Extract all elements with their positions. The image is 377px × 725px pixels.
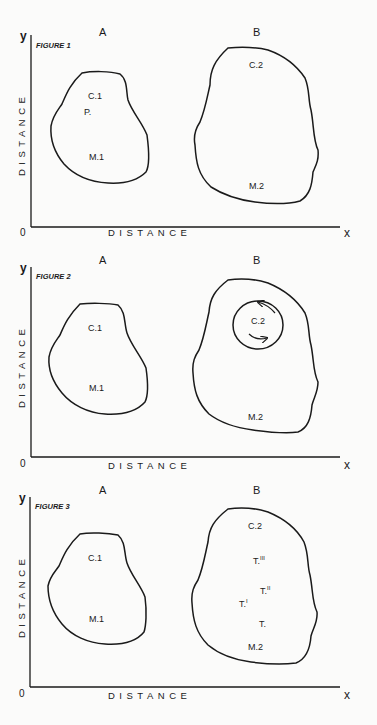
column-b-label: B: [253, 254, 260, 266]
region-a-outline: [49, 303, 148, 414]
label-t3: T.III: [253, 555, 265, 566]
column-b-label: B: [253, 484, 260, 496]
y-axis-label: DISTANCE: [16, 555, 27, 638]
x-axis-label: DISTANCE: [108, 690, 191, 701]
arrow-clockwise-icon: [249, 334, 267, 339]
y-axis-letter: y: [20, 29, 27, 43]
label-c2: C.2: [249, 60, 263, 70]
x-axis-label: DISTANCE: [108, 460, 191, 471]
figure-3: y 0 x FIGURE 3 A B DISTANCE DISTANCE C.1…: [16, 484, 350, 702]
origin-label: 0: [19, 688, 25, 699]
y-axis-letter: y: [19, 491, 26, 505]
region-a-outline: [48, 533, 146, 644]
column-a-label: A: [99, 254, 107, 266]
label-m1: M.1: [89, 383, 104, 393]
label-c1: C.1: [88, 323, 102, 333]
region-b-outline: [192, 508, 317, 664]
y-axis-label: DISTANCE: [16, 93, 27, 176]
label-t2: T.II: [260, 585, 271, 596]
label-c1: C.1: [88, 91, 102, 101]
label-t1: T.I: [239, 598, 248, 609]
label-c1: C.1: [88, 553, 102, 563]
x-axis-letter: x: [344, 458, 350, 472]
origin-label: 0: [20, 227, 26, 238]
label-m1: M.1: [89, 614, 104, 624]
origin-label: 0: [20, 458, 26, 469]
label-m2: M.2: [249, 181, 264, 191]
label-m2: M.2: [248, 412, 263, 422]
figure-title: FIGURE 1: [36, 41, 71, 50]
region-a-outline: [51, 72, 149, 184]
column-a-label: A: [99, 26, 107, 38]
diagram-canvas: y 0 x FIGURE 1 A B DISTANCE DISTANCE C.1…: [0, 0, 377, 725]
label-m1: M.1: [89, 152, 104, 162]
label-c2: C.2: [251, 316, 265, 326]
y-axis-label: DISTANCE: [16, 325, 27, 408]
label-p: P.: [84, 107, 91, 117]
arrow-counterclockwise-icon: [258, 302, 275, 313]
label-m2: M.2: [248, 642, 263, 652]
column-a-label: A: [99, 484, 107, 496]
figure-1: y 0 x FIGURE 1 A B DISTANCE DISTANCE C.1…: [16, 26, 350, 240]
figure-title: FIGURE 3: [35, 502, 70, 511]
label-c2: C.2: [248, 521, 262, 531]
x-axis-letter: x: [344, 226, 350, 240]
x-axis-letter: x: [344, 688, 350, 702]
figure-2: y 0 x FIGURE 2 A B DISTANCE DISTANCE C.1…: [16, 254, 350, 472]
label-t: T.: [259, 619, 266, 629]
figure-title: FIGURE 2: [36, 272, 71, 281]
column-b-label: B: [253, 26, 260, 38]
y-axis-letter: y: [20, 261, 27, 275]
x-axis-label: DISTANCE: [108, 227, 191, 238]
region-b-outline: [193, 279, 318, 433]
